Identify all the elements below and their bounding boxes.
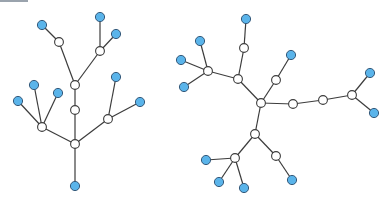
inner-node [272, 152, 281, 161]
tree-edge [34, 85, 42, 127]
tree-edge [75, 51, 100, 85]
inner-node [38, 123, 47, 132]
tree-edge [42, 127, 75, 144]
leaf-node [214, 177, 223, 186]
inner-node [231, 154, 240, 163]
inner-node [55, 38, 64, 47]
tree-edge [108, 102, 140, 119]
tree-edge [108, 77, 116, 119]
leaf-node [111, 29, 120, 38]
leaf-node [287, 175, 296, 184]
inner-node [71, 106, 80, 115]
inner-node [96, 47, 105, 56]
leaf-node [369, 108, 378, 117]
left-tree-nodes [13, 12, 144, 190]
left-tree-edges [18, 17, 140, 186]
tree-diagram-canvas [0, 0, 392, 201]
leaf-node [111, 72, 120, 81]
tree-edge [59, 42, 75, 85]
inner-node [104, 115, 113, 124]
leaf-node [37, 20, 46, 29]
leaf-node [201, 155, 210, 164]
nodes-layer [13, 12, 378, 192]
leaf-node [286, 50, 295, 59]
inner-node [240, 44, 249, 53]
inner-node [289, 100, 298, 109]
inner-node [204, 67, 213, 76]
inner-node [251, 130, 260, 139]
leaf-node [239, 183, 248, 192]
inner-node [348, 91, 357, 100]
leaf-node [29, 80, 38, 89]
leaf-node [95, 12, 104, 21]
leaf-node [365, 68, 374, 77]
tree-edge [238, 79, 261, 103]
tree-edge [75, 119, 108, 144]
inner-node [71, 81, 80, 90]
inner-node [71, 140, 80, 149]
leaf-node [241, 14, 250, 23]
leaf-node [176, 55, 185, 64]
inner-node [257, 99, 266, 108]
leaf-node [53, 88, 62, 97]
leaf-node [179, 82, 188, 91]
inner-node [234, 75, 243, 84]
leaf-node [195, 36, 204, 45]
leaf-node [13, 96, 22, 105]
tree-edge [42, 93, 58, 127]
leaf-node [70, 181, 79, 190]
leaf-node [135, 97, 144, 106]
inner-node [319, 96, 328, 105]
inner-node [272, 76, 281, 85]
